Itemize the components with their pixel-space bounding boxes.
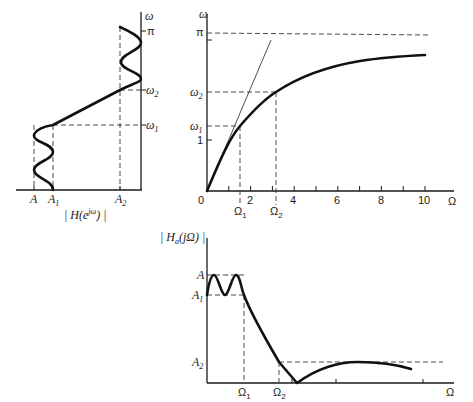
digital-response-panel: ω π ω2 ω1 A A1 A2 | H(ejω) |: [16, 9, 158, 222]
tick-label-8: 8: [378, 194, 384, 206]
tick-label-6: 6: [334, 194, 340, 206]
tick-label-pi: π: [147, 25, 155, 37]
analog-magnitude-curve: [207, 275, 411, 383]
x-axis-label: Ω: [448, 195, 456, 207]
frequency-mapping-panel: ω π ω2 ω1 1 0 2 4 6 8 10 Ω Ω1 Ω2: [190, 7, 456, 220]
x-ticks: [229, 186, 425, 191]
x-axis-label: Ω: [446, 386, 454, 398]
marker-Omega1: Ω1: [234, 205, 247, 220]
analog-response-panel: | Ha(jΩ) | A A1 A2 Ω1 Ω2 Ω: [160, 230, 454, 401]
tick-label-A1: A1: [191, 288, 203, 304]
tick-label-A: A: [29, 192, 38, 206]
x-axis-label: | H(ejω) |: [64, 207, 106, 222]
tick-label-A1: A1: [47, 192, 59, 208]
tick-label-omega1: ω1: [146, 118, 158, 134]
digital-magnitude-curve: [34, 27, 141, 190]
tick-label-1: 1: [197, 134, 203, 146]
tick-label-Omega1: Ω1: [238, 386, 251, 401]
tick-label-omega2: ω2: [190, 85, 202, 101]
tick-label-A: A: [196, 268, 205, 282]
tick-label-Omega2: Ω2: [273, 386, 286, 401]
tick-label-4: 4: [290, 194, 296, 206]
tick-label-0: 0: [198, 194, 204, 206]
figure: ω π ω2 ω1 A A1 A2 | H(ejω) |: [0, 0, 473, 402]
tick-label-omega1: ω1: [190, 119, 202, 135]
tick-label-pi: π: [196, 26, 204, 38]
y-axis-label: | Ha(jΩ) |: [160, 230, 205, 246]
marker-Omega2: Ω2: [270, 205, 283, 220]
tick-label-2: 2: [247, 194, 253, 206]
tick-label-omega2: ω2: [146, 83, 158, 99]
y-axis-label: ω: [145, 9, 153, 23]
y-axis-label: ω: [199, 7, 207, 21]
tick-label-A2: A2: [191, 355, 203, 371]
guide-pi: [207, 33, 431, 35]
tick-label-A2: A2: [114, 192, 126, 208]
tick-label-10: 10: [418, 194, 430, 206]
